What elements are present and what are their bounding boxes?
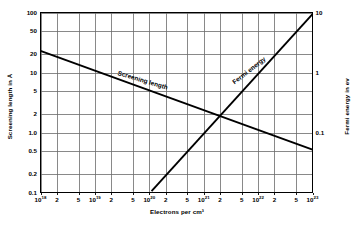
y-tick-left-5: 2 <box>0 110 37 117</box>
y-tick-left-8: 0.2 <box>0 170 37 177</box>
x-tick-15: 1023 <box>300 196 326 203</box>
y-tick-left-7: 0.5 <box>0 147 37 154</box>
figure-root: Electrons per cm³ Screening length in Å … <box>0 0 355 225</box>
y-tick-right-1: 1 <box>316 69 342 76</box>
y-tick-left-6: 1.0 <box>0 129 37 136</box>
chart-plot-area <box>0 0 355 225</box>
y-tick-left-1: 50 <box>0 27 37 34</box>
y-tick-right-0: 10 <box>316 9 342 16</box>
y-tick-left-9: 0.1 <box>0 189 37 196</box>
chart-background <box>0 0 355 225</box>
y-tick-left-4: 5 <box>0 87 37 94</box>
x-axis-title: Electrons per cm³ <box>107 208 247 215</box>
y-tick-left-0: 100 <box>0 9 37 16</box>
y-tick-right-2: 0.1 <box>316 129 342 136</box>
y-tick-left-2: 20 <box>0 50 37 57</box>
y-axis-title-right: Fermi energy in ev <box>343 67 350 147</box>
y-tick-left-3: 10 <box>0 69 37 76</box>
